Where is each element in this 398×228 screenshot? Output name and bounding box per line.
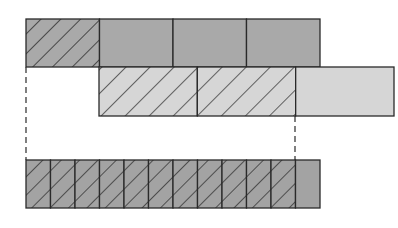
top-bar-hatched-segment (26, 19, 100, 67)
middle-bar-segment (296, 67, 394, 116)
bottom-bar-hatched-segment (100, 160, 125, 208)
top-bar-segment (100, 19, 174, 67)
bottom-bar-hatched-segment (247, 160, 272, 208)
bottom-bar-hatched-segment (124, 160, 149, 208)
bottom-bar-segment (296, 160, 321, 208)
bottom-bar-hatched-segment (198, 160, 223, 208)
middle-bar-two-thirds (99, 67, 394, 116)
bottom-bar-hatched-segment (51, 160, 76, 208)
bottom-bar-hatched-segment (75, 160, 100, 208)
bottom-bar-hatched-segment (271, 160, 296, 208)
top-bar-segment (247, 19, 321, 67)
top-bar-one-quarter (26, 19, 320, 67)
fraction-bar-diagram (0, 0, 398, 228)
bottom-bar-eleven-twelfths (26, 160, 320, 208)
bottom-bar-hatched-segment (222, 160, 247, 208)
bottom-bar-hatched-segment (173, 160, 198, 208)
middle-bar-hatched-segment (99, 67, 197, 116)
bottom-bar-hatched-segment (149, 160, 174, 208)
bottom-bar-hatched-segment (26, 160, 51, 208)
middle-bar-hatched-segment (197, 67, 295, 116)
top-bar-segment (173, 19, 247, 67)
